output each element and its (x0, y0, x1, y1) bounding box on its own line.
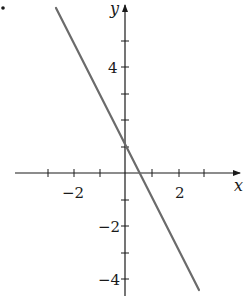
x-axis-label: x (234, 176, 243, 195)
y-tick-label-neg4: −4 (98, 271, 120, 289)
function-line (56, 8, 199, 290)
y-tick-label-neg2: −2 (98, 218, 120, 236)
x-tick-label-2: 2 (175, 184, 185, 202)
y-axis-label: y (109, 0, 120, 18)
list-bullet (1, 6, 5, 10)
x-tick-label-neg2: −2 (62, 184, 84, 202)
coordinate-plane: −2 2 4 −2 −4 y x (0, 0, 250, 303)
y-tick-label-4: 4 (108, 59, 118, 77)
